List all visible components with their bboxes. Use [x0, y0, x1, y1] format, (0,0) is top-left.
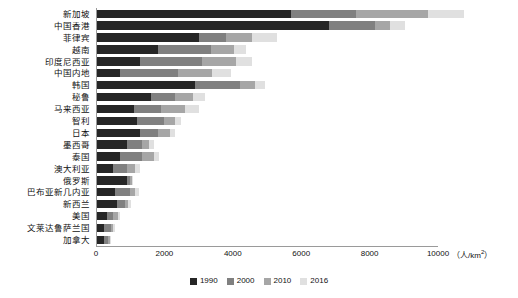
bar-segment-2000 [199, 33, 226, 41]
stacked-bar [96, 176, 133, 184]
category-label: 中国内地 [54, 69, 90, 78]
stacked-bar [96, 93, 205, 101]
bar-segment-1990 [96, 140, 127, 148]
stacked-bar [96, 164, 140, 172]
chart-legend: 1990200020102016 [0, 277, 518, 285]
bar-segment-1990 [96, 117, 137, 125]
bar-segment-2016 [255, 81, 265, 89]
bar-segment-1990 [96, 45, 158, 53]
bar-segment-2000 [113, 164, 127, 172]
bar-segment-2016 [128, 200, 130, 208]
bar-row: 秘鲁 [96, 91, 438, 103]
stacked-bar [96, 152, 159, 160]
bar-row: 韩国 [96, 79, 438, 91]
bar-segment-2016 [185, 105, 199, 113]
bar-segment-2016 [234, 45, 246, 53]
bar-segment-2016 [118, 212, 120, 220]
bar-row: 印度尼西亚 [96, 56, 438, 68]
category-label: 俄罗斯 [63, 176, 90, 185]
bar-segment-2010 [175, 93, 194, 101]
stacked-bar [96, 81, 265, 89]
bar-segment-1990 [96, 129, 140, 137]
category-label: 澳大利亚 [54, 164, 90, 173]
legend-swatch-icon [190, 278, 197, 285]
bar-segment-1990 [96, 33, 199, 41]
bar-segment-2010 [202, 57, 236, 65]
bar-row: 墨西哥 [96, 139, 438, 151]
bar-row: 中国内地 [96, 68, 438, 80]
bar-segment-1990 [96, 81, 195, 89]
bar-segment-2016 [135, 164, 140, 172]
bar-segment-1990 [96, 188, 115, 196]
bar-segment-1990 [96, 176, 127, 184]
bar-row: 越南 [96, 44, 438, 56]
legend-item-2010[interactable]: 2010 [264, 277, 292, 285]
category-label: 越南 [72, 45, 90, 54]
legend-swatch-icon [264, 278, 271, 285]
stacked-bar [96, 57, 252, 65]
stacked-bar [96, 188, 139, 196]
bar-segment-2016 [252, 33, 278, 41]
bar-segment-2016 [110, 236, 111, 244]
x-tick-label: 0 [94, 249, 98, 258]
category-label: 加拿大 [63, 236, 90, 245]
bar-segment-2010 [211, 45, 235, 53]
category-label: 秘鲁 [72, 93, 90, 102]
x-tick-label: 4000 [224, 249, 242, 258]
bar-segment-1990 [96, 93, 151, 101]
legend-label: 2016 [310, 277, 328, 285]
bar-segment-2010 [127, 164, 136, 172]
bar-segment-2016 [135, 188, 138, 196]
bar-segment-1990 [96, 57, 140, 65]
category-label: 韩国 [72, 81, 90, 90]
bar-segment-2000 [104, 224, 111, 232]
bar-segment-2000 [140, 129, 157, 137]
category-label: 马来西亚 [54, 105, 90, 114]
bar-segment-2016 [175, 117, 182, 125]
category-label: 美国 [72, 212, 90, 221]
bar-segment-1990 [96, 152, 120, 160]
stacked-bar [96, 69, 231, 77]
category-label: 印度尼西亚 [45, 57, 90, 66]
bar-segment-1990 [96, 224, 104, 232]
bar-row: 美国 [96, 210, 438, 222]
category-label: 新西兰 [63, 200, 90, 209]
stacked-bar [96, 45, 246, 53]
bar-segment-1990 [96, 105, 134, 113]
bar-segment-2000 [120, 152, 142, 160]
legend-label: 2010 [274, 277, 292, 285]
legend-label: 1990 [200, 277, 218, 285]
bar-segment-2010 [356, 10, 428, 18]
legend-item-1990[interactable]: 1990 [190, 277, 218, 285]
bar-segment-2016 [113, 224, 115, 232]
category-label: 日本 [72, 128, 90, 137]
bar-segment-2000 [140, 57, 202, 65]
legend-item-2000[interactable]: 2000 [227, 277, 255, 285]
bar-chart: 新加坡中国香港菲律宾越南印度尼西亚中国内地韩国秘鲁马来西亚智利日本墨西哥泰国澳大… [0, 0, 518, 298]
bar-segment-2016 [154, 152, 159, 160]
bar-row: 加拿大 [96, 234, 438, 246]
bar-segment-2010 [178, 69, 212, 77]
bar-row: 泰国 [96, 151, 438, 163]
bar-segment-1990 [96, 164, 113, 172]
bar-segment-1990 [96, 10, 291, 18]
bar-segment-2016 [132, 176, 133, 184]
legend-item-2016[interactable]: 2016 [300, 277, 328, 285]
bar-segment-2010 [240, 81, 255, 89]
category-label: 新加坡 [63, 9, 90, 18]
bar-segment-2010 [161, 105, 185, 113]
stacked-bar [96, 212, 120, 220]
bar-row: 中国香港 [96, 20, 438, 32]
bar-segment-2000 [127, 140, 142, 148]
stacked-bar [96, 105, 199, 113]
bar-segment-2000 [137, 117, 164, 125]
bar-segment-2000 [120, 69, 178, 77]
bar-segment-2016 [193, 93, 205, 101]
x-axis-unit-label: （人/km2） [452, 249, 492, 260]
x-tick-label: 10000 [427, 249, 449, 258]
bar-segment-1990 [96, 236, 104, 244]
bar-row: 新西兰 [96, 198, 438, 210]
bar-row: 菲律宾 [96, 32, 438, 44]
bar-segment-2016 [170, 129, 175, 137]
stacked-bar [96, 224, 115, 232]
